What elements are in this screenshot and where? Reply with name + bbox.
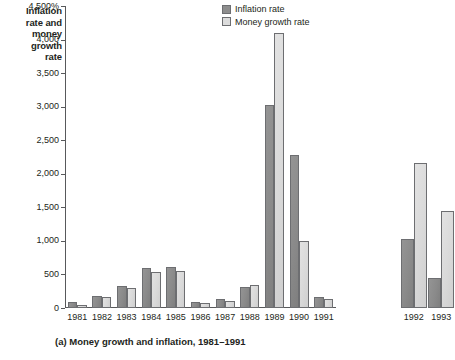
bar-inflation-rate (314, 297, 324, 308)
y-axis-tick-label: 0 (3, 304, 59, 313)
panel-a-caption: (a) Money growth and inflation, 1981–199… (55, 336, 246, 347)
bar-inflation-rate (240, 287, 250, 308)
bar-group (262, 6, 287, 308)
bar-money-growth-rate (151, 272, 161, 308)
bar-inflation-rate (401, 239, 414, 308)
y-axis-tick-mark (61, 308, 65, 309)
x-axis-tick-label: 1993 (421, 312, 455, 322)
y-axis-tick-label: 3,500 (3, 69, 59, 78)
y-axis-tick-label: 3,000 (3, 102, 59, 111)
bar-group (164, 6, 189, 308)
bar-money-growth-rate (250, 285, 260, 308)
bar-money-growth-rate (102, 297, 112, 308)
bar-money-growth-rate (441, 211, 454, 308)
y-axis-tick-label: 1,500 (3, 203, 59, 212)
bar-group (237, 6, 262, 308)
x-axis-tick-label: 1991 (304, 312, 344, 322)
bar-group (400, 6, 428, 308)
bar-inflation-rate (290, 155, 300, 308)
y-axis-tick-label: 500 (3, 270, 59, 279)
bar-money-growth-rate (77, 305, 87, 308)
y-axis-tick-label: 4,500% (3, 2, 59, 11)
y-axis-tick-label: 2,500 (3, 136, 59, 145)
bar-money-growth-rate (176, 271, 186, 308)
bar-group (139, 6, 164, 308)
bar-inflation-rate (92, 296, 102, 308)
bar-inflation-rate (216, 299, 226, 308)
bar-group (287, 6, 312, 308)
bar-money-growth-rate (414, 163, 427, 308)
y-axis-tick-label: 2,000 (3, 169, 59, 178)
bar-inflation-rate (117, 286, 127, 308)
bar-money-growth-rate (299, 241, 309, 308)
bar-inflation-rate (68, 302, 78, 308)
bar-money-growth-rate (324, 299, 334, 308)
figure-money-growth-and-inflation: Inflation rate Money growth rate Inflati… (0, 0, 455, 360)
bar-inflation-rate (265, 105, 275, 308)
bar-group (90, 6, 115, 308)
bar-money-growth-rate (225, 301, 235, 308)
bar-group (114, 6, 139, 308)
bar-inflation-rate (428, 278, 441, 308)
bar-group (213, 6, 238, 308)
y-axis-tick-label: 4,000 (3, 35, 59, 44)
bar-money-growth-rate (200, 303, 210, 308)
bar-money-growth-rate (274, 33, 284, 308)
bar-group (65, 6, 90, 308)
bar-inflation-rate (142, 268, 152, 308)
bar-inflation-rate (166, 267, 176, 308)
bar-group (311, 6, 336, 308)
bar-group (188, 6, 213, 308)
y-axis-tick-label: 1,000 (3, 236, 59, 245)
bar-inflation-rate (191, 302, 201, 308)
bar-group (428, 6, 455, 308)
bar-money-growth-rate (127, 288, 137, 308)
